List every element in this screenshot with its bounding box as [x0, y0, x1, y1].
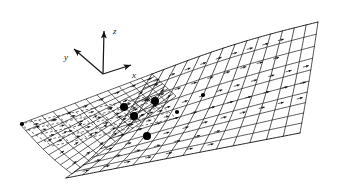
mesh-diagram-svg: z y x — [0, 0, 346, 189]
control-point-marker — [130, 112, 138, 120]
control-point-marker — [143, 132, 151, 140]
control-point-marker — [151, 97, 159, 105]
axis-label-x: x — [131, 70, 136, 80]
axis-label-y: y — [63, 52, 68, 62]
control-point-marker-small — [175, 110, 179, 114]
axis-label-z: z — [112, 26, 117, 36]
control-point-marker-small — [121, 104, 125, 108]
figure-canvas: z y x — [0, 0, 346, 189]
control-point-marker-small — [20, 122, 24, 126]
control-point-marker-small — [201, 93, 205, 97]
